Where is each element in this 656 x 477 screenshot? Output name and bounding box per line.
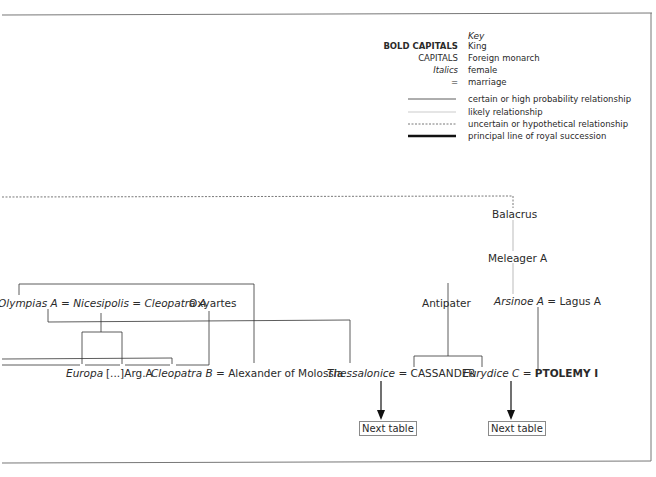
person-arg-a: [...]Arg.A bbox=[106, 367, 153, 379]
person-eurydice-c: Eurydice C bbox=[463, 367, 519, 379]
person-nicesipolis: Nicesipolis bbox=[73, 297, 129, 309]
key-desc-marriage: marriage bbox=[468, 77, 507, 87]
person-thessalonice: Thessalonice bbox=[327, 367, 395, 379]
person-arsinoe-a: Arsinoe A bbox=[494, 295, 544, 307]
key-label-italics: Italics bbox=[433, 65, 458, 75]
marriage-eurydice-ptolemy: Eurydice C = PTOLEMY I bbox=[463, 367, 598, 379]
next-table-link-cassander[interactable]: Next table bbox=[359, 421, 417, 436]
key-desc-foreign-monarch: Foreign monarch bbox=[468, 53, 540, 63]
marriage-sign: = bbox=[216, 367, 225, 379]
person-lagus-a: Lagus A bbox=[559, 295, 601, 307]
key-label-bold-capitals: BOLD CAPITALS bbox=[383, 41, 458, 51]
person-antipater: Antipater bbox=[422, 297, 471, 309]
key-desc-king: King bbox=[468, 41, 487, 51]
key-desc-certain: certain or high probability relationship bbox=[468, 94, 631, 104]
key-desc-uncertain: uncertain or hypothetical relationship bbox=[468, 119, 628, 129]
key-desc-principal-line: principal line of royal succession bbox=[468, 131, 606, 141]
key-desc-female: female bbox=[468, 65, 497, 75]
person-cleopatra-b: Cleopatra B bbox=[151, 367, 213, 379]
marriage-sign: = bbox=[61, 297, 70, 309]
marriage-arsinoe-lagus: Arsinoe A = Lagus A bbox=[494, 295, 601, 307]
key-label-equals: = bbox=[451, 77, 458, 87]
marriage-olympias-nicesipolis-cleopatra: Olympias A = Nicesipolis = Cleopatra A bbox=[0, 297, 206, 309]
key-label-capitals: CAPITALS bbox=[418, 53, 458, 63]
person-alexander-of-molossia: Alexander of Molossia bbox=[228, 367, 343, 379]
marriage-cleopatra-b-alexander: Cleopatra B = Alexander of Molossia bbox=[151, 367, 343, 379]
marriage-sign: = bbox=[132, 297, 141, 309]
marriage-sign: = bbox=[523, 367, 532, 379]
person-meleager-a: Meleager A bbox=[488, 252, 547, 264]
key-desc-likely: likely relationship bbox=[468, 107, 543, 117]
marriage-sign: = bbox=[547, 295, 556, 307]
person-olympias-a: Olympias A bbox=[0, 297, 58, 309]
person-oxyartes: Oxyartes bbox=[189, 297, 237, 309]
person-europa: Europa bbox=[66, 367, 103, 379]
family-tree-lines bbox=[0, 0, 656, 477]
person-ptolemy-i: PTOLEMY I bbox=[535, 367, 598, 379]
marriage-sign: = bbox=[398, 367, 407, 379]
person-balacrus: Balacrus bbox=[492, 208, 537, 220]
marriage-thessalonice-cassander: Thessalonice = CASSANDER bbox=[327, 367, 476, 379]
next-table-link-ptolemy[interactable]: Next table bbox=[488, 421, 546, 436]
